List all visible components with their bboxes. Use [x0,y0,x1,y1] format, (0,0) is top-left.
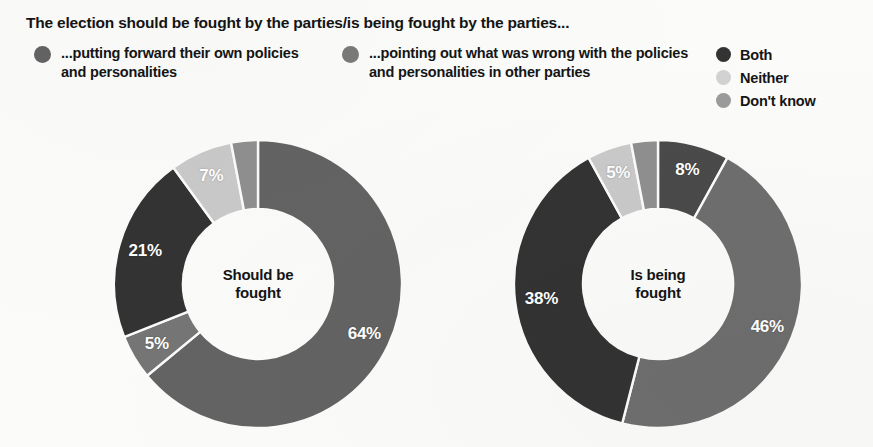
legend-label-own-policies: ...putting forward their own policies an… [61,44,324,82]
legend-item-pointing-out: ...pointing out what was wrong with the … [342,44,702,82]
legend-label-dont-know: Don't know [740,93,816,109]
legend-swatch-both-icon [716,47,731,62]
legend-label-pointing-out: ...pointing out what was wrong with the … [369,44,702,82]
legend-item-neither: Neither [716,67,873,88]
legend-swatch-own-policies-icon [34,46,51,63]
legend-item-dont-know: Don't know [716,90,873,111]
donut-chart-should-be-fought: Should befought 64%5%21%7% [108,134,408,434]
donut-chart-is-being-fought: Is beingfought 8%46%38%5% [508,134,808,434]
donut-svg-is-being-fought [508,134,808,434]
chart-sheet: The election should be fought by the par… [0,0,873,447]
legend-item-both: Both [716,44,873,65]
page-title: The election should be fought by the par… [26,14,569,32]
legend-swatch-pointing-out-icon [342,46,359,63]
charts-area: Should befought 64%5%21%7% Is beingfough… [0,134,873,447]
legend-label-both: Both [740,47,772,63]
legend-item-own-policies: ...putting forward their own policies an… [34,44,324,82]
donut-svg-should-be-fought [108,134,408,434]
legend: ...putting forward their own policies an… [26,44,856,130]
legend-secondary: Both Neither Don't know [716,44,873,113]
legend-swatch-neither-icon [716,70,731,85]
legend-label-neither: Neither [740,70,789,86]
legend-swatch-dont-know-icon [716,93,731,108]
